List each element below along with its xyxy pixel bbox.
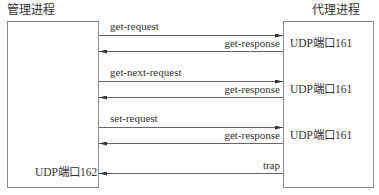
message-label-get-request: get-request — [110, 20, 159, 32]
agent-port-label-3: UDP端口161 — [290, 129, 352, 142]
message-label-get-next-request: get-next-request — [110, 66, 181, 78]
manager-port-label: UDP端口162 — [35, 166, 97, 179]
message-label-get-response-3: get-response — [224, 129, 280, 141]
message-label-get-response-1: get-response — [224, 37, 280, 49]
agent-port-label-1: UDP端口161 — [290, 37, 352, 50]
agent-port-label-2: UDP端口161 — [290, 83, 352, 96]
message-label-get-response-2: get-response — [224, 83, 280, 95]
message-label-trap: trap — [263, 159, 280, 171]
message-label-set-request: set-request — [110, 112, 158, 124]
